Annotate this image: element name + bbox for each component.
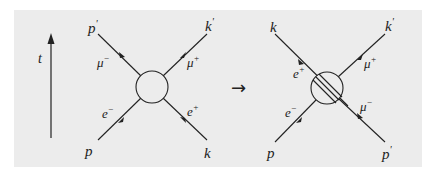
svg-text:μ−: μ− [96,53,110,70]
transform-arrow-icon: → [231,77,246,98]
svg-text:p: p [266,145,275,161]
svg-text:μ+: μ+ [186,53,200,70]
time-axis: t [38,33,55,138]
svg-text:e−: e− [102,104,114,121]
svg-text:μ−: μ− [359,97,373,114]
feynman-diagrams: t p' k' p k μ− μ+ e− e+ → [0,0,433,176]
svg-text:e+: e+ [293,64,305,81]
svg-text:k': k' [205,16,215,34]
svg-text:p': p' [381,144,393,162]
vertex-circle [136,71,168,103]
left-diagram: p' k' p k μ− μ+ e− e+ [84,16,215,161]
right-diagram: k k' p p' e+ μ+ e− μ− [266,16,395,162]
time-label: t [38,51,43,66]
arrow-up-icon [48,33,55,44]
svg-text:k': k' [385,16,395,34]
svg-text:k: k [204,145,211,161]
fermion-arrow-icon [180,117,186,123]
fermion-arrow-icon [119,52,125,58]
svg-text:p': p' [87,18,99,36]
svg-text:e+: e+ [187,102,199,119]
svg-text:μ+: μ+ [363,54,377,71]
svg-text:k: k [270,19,277,35]
svg-text:e−: e− [285,103,297,120]
svg-text:p: p [84,143,93,159]
